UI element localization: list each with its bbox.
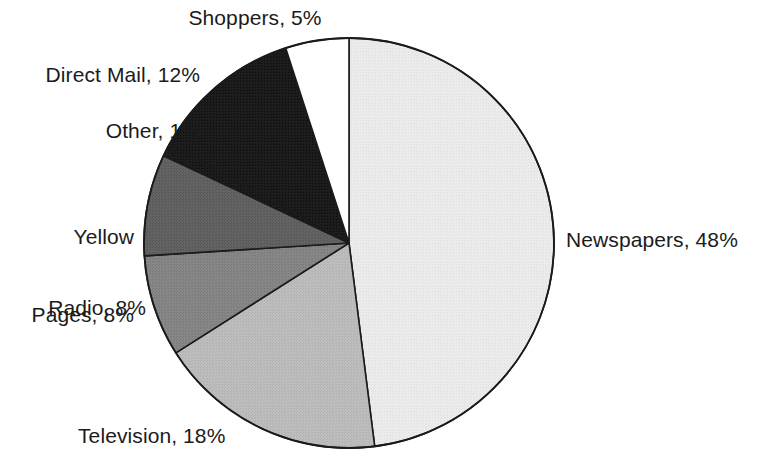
slice-label-yellow-pages: Yellow Pages, 8% xyxy=(0,172,134,380)
pie-chart: Shoppers, 5% Direct Mail, 12% Other, 1% … xyxy=(0,0,776,470)
pie-slice-newspapers[interactable] xyxy=(349,38,554,446)
slice-label-other: Other, 1% xyxy=(10,118,200,144)
slice-label-yellow-pages-line1: Yellow xyxy=(0,224,134,250)
slice-label-television: Television, 18% xyxy=(78,423,268,449)
slice-label-shoppers: Shoppers, 5% xyxy=(175,5,335,31)
pie-slices-group xyxy=(144,38,554,448)
slice-label-radio: Radio, 8% xyxy=(0,295,146,321)
slice-label-direct-mail: Direct Mail, 12% xyxy=(10,62,200,88)
slice-label-newspapers: Newspapers, 48% xyxy=(566,227,776,253)
